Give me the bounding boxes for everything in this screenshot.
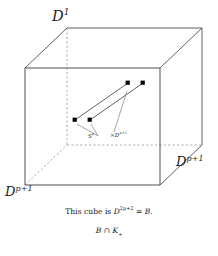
label-dp1-right: Dp+1 [176,155,204,168]
dot-lower-left [73,118,77,122]
label-dp1-left-exponent: p+1 [16,184,33,193]
caption-line-1: This cube is D2p+2 = B. [0,208,218,216]
figure-container: D1 Dp+1 Dp+1 Sp ×Dp+1 This cube is D2p+2… [0,0,218,256]
caption-line-2: B ∩ K+ [0,227,218,235]
caption-prefix: This cube is [65,207,113,216]
caption2-right-sub: + [118,231,122,237]
edge-connect-top-left [25,28,67,68]
label-dp1-left-base: D [5,184,16,199]
caption2-op: ∩ [101,226,112,235]
segment-endpoint-dots [73,81,145,122]
label-d1: D1 [52,9,70,24]
label-dp1-right-base: D [176,154,187,169]
edge-connect-top-right [160,28,202,68]
segment-outer [75,83,128,120]
label-sp-exponent: p [92,132,94,136]
edge-connect-bottom-left-hidden [25,145,67,185]
dot-upper-left [126,81,130,85]
dot-lower-right [88,118,92,122]
cube-back-face-edges [67,28,202,145]
label-sphere-sp: Sp [88,134,94,140]
label-dp1-bottom-left: Dp+1 [5,185,33,198]
label-d1-base: D [52,8,64,24]
segment-inner [90,83,143,120]
interior-segments [75,83,143,120]
label-xdp1-exponent: p+1 [119,131,127,135]
label-dp1-right-exponent: p+1 [187,154,204,163]
cube-diagram-svg [0,0,218,256]
leader-to-xdp1 [114,91,127,132]
label-d1-exponent: 1 [64,7,70,17]
dot-upper-right [141,81,145,85]
label-disk-factor: ×Dp+1 [110,133,127,139]
caption-suffix: = B. [134,207,153,216]
caption-d-exponent: 2p+2 [120,205,134,211]
